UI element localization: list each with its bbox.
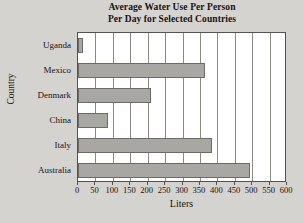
bar-row <box>78 163 285 179</box>
x-tick-label-300: 300 <box>175 185 188 195</box>
x-axis-tick-labels: 050100150200250300350400450500550600 <box>77 185 286 197</box>
bar-mexico <box>78 63 205 79</box>
x-tick-label-350: 350 <box>193 185 206 195</box>
y-tick-label-italy: Italy <box>55 140 72 150</box>
y-tick-label-mexico: Mexico <box>44 65 72 75</box>
chart-title-line-1: Average Water Use Per Person <box>52 2 292 14</box>
bar-row <box>78 113 285 129</box>
x-tick-label-100: 100 <box>105 185 118 195</box>
bar-row <box>78 88 285 104</box>
x-tick-label-50: 50 <box>90 185 99 195</box>
bar-denmark <box>78 88 151 104</box>
x-tick-label-150: 150 <box>123 185 136 195</box>
bar-chart-figure: Average Water Use Per Person Per Day for… <box>0 0 304 223</box>
bar-china <box>78 113 108 129</box>
x-tick-label-500: 500 <box>245 185 258 195</box>
bar-italy <box>78 138 212 154</box>
bar-row <box>78 138 285 154</box>
x-tick-label-400: 400 <box>210 185 223 195</box>
bar-row <box>78 63 285 79</box>
bars-layer <box>78 33 285 181</box>
bar-row <box>78 38 285 54</box>
y-tick-label-denmark: Denmark <box>38 90 72 100</box>
y-tick-label-uganda: Uganda <box>43 40 71 50</box>
bar-uganda <box>78 38 83 54</box>
y-tick-label-china: China <box>50 115 72 125</box>
x-tick-label-250: 250 <box>158 185 171 195</box>
x-axis-title: Liters <box>77 198 286 209</box>
chart-title-line-2: Per Day for Selected Countries <box>52 14 292 26</box>
bar-australia <box>78 163 250 179</box>
x-tick-label-550: 550 <box>262 185 275 195</box>
x-tick-label-0: 0 <box>75 185 79 195</box>
x-tick-label-450: 450 <box>227 185 240 195</box>
x-tick-label-200: 200 <box>140 185 153 195</box>
y-tick-label-australia: Australia <box>38 165 71 175</box>
chart-title: Average Water Use Per Person Per Day for… <box>52 2 292 25</box>
y-axis-tick-labels: UgandaMexicoDenmarkChinaItalyAustralia <box>0 32 74 182</box>
plot-area <box>77 32 286 182</box>
x-tick-label-600: 600 <box>280 185 293 195</box>
